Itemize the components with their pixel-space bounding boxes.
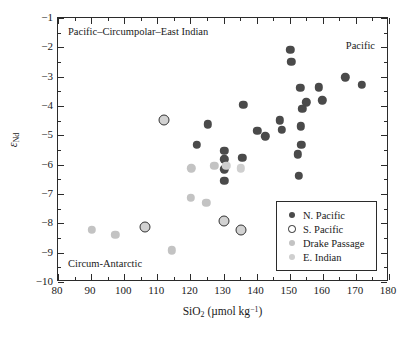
data-point <box>222 161 230 169</box>
axis-tick <box>323 274 324 280</box>
data-point <box>193 141 201 149</box>
annotation-pacific-circumpolar: Pacific–Circumpolar–East Indian <box>68 26 208 37</box>
x-tick-label: 130 <box>214 284 231 296</box>
axis-tick <box>384 62 387 63</box>
x-tick-label: 150 <box>280 284 297 296</box>
legend-label-s-pacific: S. Pacific <box>303 224 343 235</box>
axis-tick <box>207 18 208 21</box>
axis-tick <box>124 274 125 280</box>
data-point <box>341 73 349 81</box>
legend-item-drake-passage: Drake Passage <box>285 236 365 250</box>
axis-tick <box>91 18 92 24</box>
chart-legend: N. Pacific S. Pacific Drake Passage E. I… <box>276 201 377 271</box>
axis-tick <box>240 277 241 280</box>
data-point <box>111 231 119 239</box>
axis-tick <box>157 18 158 24</box>
axis-tick <box>58 194 64 195</box>
data-point <box>318 96 326 104</box>
y-tick-label: −9 <box>41 246 53 258</box>
annotation-circum-antarctic: Circum-Antarctic <box>68 258 142 269</box>
axis-tick <box>58 179 61 180</box>
legend-marker-s-pacific-icon <box>285 225 299 233</box>
y-tick-label: −7 <box>41 187 53 199</box>
axis-tick <box>381 223 387 224</box>
x-tick-label: 120 <box>181 284 198 296</box>
y-tick-label: −2 <box>41 40 53 52</box>
data-point <box>238 154 246 162</box>
data-point <box>88 226 96 234</box>
axis-tick <box>108 18 109 21</box>
axis-tick <box>141 18 142 21</box>
axis-tick <box>58 91 61 92</box>
axis-tick <box>356 274 357 280</box>
data-point <box>296 122 304 130</box>
axis-tick <box>207 277 208 280</box>
axis-tick <box>384 33 387 34</box>
legend-marker-drake-passage-icon <box>285 240 299 246</box>
axis-tick <box>190 274 191 280</box>
axis-tick <box>384 267 387 268</box>
axis-tick <box>58 33 61 34</box>
axis-tick <box>384 91 387 92</box>
axis-tick <box>58 47 64 48</box>
axis-tick <box>384 150 387 151</box>
axis-tick <box>384 209 387 210</box>
axis-tick <box>381 194 387 195</box>
x-tick-label: 170 <box>347 284 364 296</box>
data-point <box>297 141 305 149</box>
y-tick-label: −6 <box>41 158 53 170</box>
axis-tick <box>174 18 175 21</box>
axis-tick <box>381 253 387 254</box>
legend-item-e-indian: E. Indian <box>285 250 365 264</box>
axis-tick <box>58 77 64 78</box>
axis-tick <box>384 238 387 239</box>
y-tick-label: −4 <box>41 99 53 111</box>
data-point <box>220 147 228 155</box>
axis-tick <box>75 18 76 21</box>
x-tick-label: 180 <box>380 284 397 296</box>
axis-tick <box>75 277 76 280</box>
data-point <box>294 150 302 158</box>
data-point <box>210 161 218 169</box>
y-tick-label: −3 <box>41 70 53 82</box>
data-point <box>286 46 294 54</box>
data-point <box>358 81 366 89</box>
axis-tick <box>389 18 390 24</box>
axis-tick <box>381 282 387 283</box>
axis-tick <box>381 77 387 78</box>
axis-tick <box>58 62 61 63</box>
axis-tick <box>306 277 307 280</box>
data-point <box>219 215 230 226</box>
axis-tick <box>240 18 241 21</box>
legend-item-n-pacific: N. Pacific <box>285 208 365 222</box>
data-point <box>220 177 228 185</box>
axis-tick <box>58 121 61 122</box>
data-point <box>287 58 295 66</box>
data-point <box>315 83 323 91</box>
x-tick-label: 80 <box>52 284 63 296</box>
axis-tick <box>58 165 64 166</box>
y-tick-label: −10 <box>36 275 53 287</box>
axis-tick <box>190 18 191 24</box>
axis-tick <box>381 47 387 48</box>
axis-tick <box>124 18 125 24</box>
axis-tick <box>381 135 387 136</box>
x-tick-label: 90 <box>85 284 96 296</box>
axis-tick <box>58 238 61 239</box>
axis-tick <box>58 209 61 210</box>
x-axis-title: SiO2 (µmol kg−1) <box>57 305 388 319</box>
x-tick-label: 160 <box>314 284 331 296</box>
axis-tick <box>306 18 307 21</box>
axis-tick <box>224 274 225 280</box>
axis-tick <box>58 106 64 107</box>
axis-tick <box>257 18 258 24</box>
axis-tick <box>372 277 373 280</box>
axis-tick <box>323 18 324 24</box>
y-axis-title: εNd <box>6 133 21 148</box>
axis-tick <box>384 121 387 122</box>
data-point <box>298 105 306 113</box>
axis-tick <box>290 18 291 24</box>
axis-tick <box>58 223 64 224</box>
legend-marker-n-pacific-icon <box>285 212 299 218</box>
data-point <box>187 194 195 202</box>
